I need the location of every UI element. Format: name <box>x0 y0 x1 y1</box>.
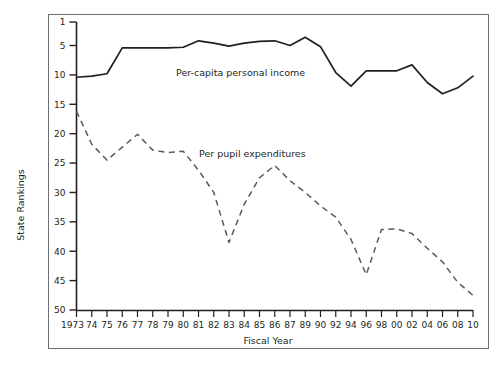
x-tick-label: 06 <box>437 320 449 330</box>
figure-container: 15101520253035404550 1973747576777879808… <box>0 0 500 372</box>
x-tick-label: 80 <box>178 320 190 330</box>
x-tick-label: 74 <box>86 320 98 330</box>
y-tick-label: 45 <box>54 276 65 286</box>
x-tick-label: 02 <box>406 320 417 330</box>
series-line-per-pupil-expenditures <box>77 111 474 295</box>
x-tick-label: 79 <box>162 320 174 330</box>
y-tick-label: 1 <box>60 17 66 27</box>
x-tick-label: 75 <box>101 320 112 330</box>
x-tick-label: 87 <box>284 320 295 330</box>
y-tick-label: 30 <box>54 188 66 198</box>
y-tick-label: 35 <box>54 217 65 227</box>
y-tick-label: 10 <box>54 70 66 80</box>
y-tick-label: 5 <box>60 41 66 51</box>
x-tick-label: 1973 <box>61 320 84 330</box>
x-axis-ticks: 1973747576777879808182838485868789909294… <box>61 310 479 330</box>
x-tick-label: 76 <box>117 320 129 330</box>
figure-caption <box>28 360 478 372</box>
x-tick-label: 94 <box>345 320 357 330</box>
y-axis-ticks: 15101520253035404550 <box>54 17 76 315</box>
x-tick-label: 86 <box>269 320 281 330</box>
line-chart: 15101520253035404550 1973747576777879808… <box>0 0 500 372</box>
x-tick-label: 10 <box>467 320 479 330</box>
y-axis-title: State Rankings <box>15 169 26 241</box>
x-tick-label: 78 <box>147 320 159 330</box>
x-tick-label: 98 <box>376 320 388 330</box>
x-tick-label: 92 <box>330 320 341 330</box>
series-label-per-pupil-expenditures: Per pupil expenditures <box>199 148 306 159</box>
x-tick-label: 82 <box>208 320 219 330</box>
x-tick-label: 83 <box>223 320 234 330</box>
x-tick-label: 90 <box>315 320 327 330</box>
chart-frame <box>49 15 489 349</box>
x-tick-label: 08 <box>452 320 464 330</box>
x-axis-title: Fiscal Year <box>243 335 292 346</box>
x-tick-label: 89 <box>300 320 312 330</box>
y-tick-label: 20 <box>54 129 66 139</box>
series-line-per-capita-personal-income <box>77 37 474 93</box>
y-tick-label: 50 <box>54 305 66 315</box>
x-tick-label: 77 <box>132 320 143 330</box>
y-tick-label: 25 <box>54 158 65 168</box>
y-tick-label: 40 <box>54 247 66 257</box>
x-tick-label: 04 <box>422 320 434 330</box>
x-tick-label: 85 <box>254 320 265 330</box>
x-tick-label: 84 <box>239 320 251 330</box>
series-label-per-capita-personal-income: Per-capita personal income <box>176 67 305 78</box>
y-tick-label: 15 <box>54 100 65 110</box>
x-tick-label: 81 <box>193 320 204 330</box>
x-tick-label: 96 <box>361 320 373 330</box>
x-tick-label: 00 <box>391 320 403 330</box>
